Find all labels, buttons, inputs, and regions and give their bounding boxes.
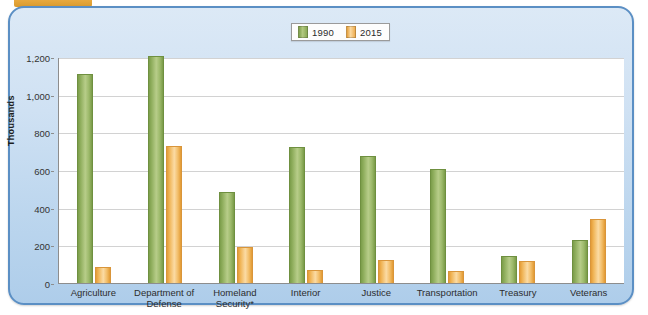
x-category-label-line: Homeland xyxy=(200,287,271,298)
legend-label-1990: 1990 xyxy=(312,27,334,38)
bar-2015[interactable] xyxy=(590,219,606,283)
bar-group xyxy=(59,58,130,283)
legend-swatch-icon-2015 xyxy=(346,26,356,38)
bar-1990[interactable] xyxy=(289,147,305,283)
legend-item-1990: 1990 xyxy=(298,26,334,38)
bar-2015[interactable] xyxy=(95,267,111,283)
y-tick-label: 800 xyxy=(10,128,50,139)
x-category-label-line: Veterans xyxy=(553,287,624,298)
bar-1990[interactable] xyxy=(219,192,235,283)
x-category-label: Interior xyxy=(270,287,341,309)
bar-group xyxy=(412,58,483,283)
y-tick-mark xyxy=(51,246,54,247)
y-tick-mark xyxy=(51,133,54,134)
x-category-label-line: Defense xyxy=(129,298,200,309)
bar-group xyxy=(483,58,554,283)
bar-1990[interactable] xyxy=(148,56,164,283)
bar-group xyxy=(342,58,413,283)
x-category-label: Justice xyxy=(341,287,412,309)
x-axis-category-labels: AgricultureDepartment ofDefenseHomelandS… xyxy=(58,287,624,309)
x-category-label-line: Security* xyxy=(200,298,271,309)
bar-2015[interactable] xyxy=(519,261,535,283)
x-category-label-line: Transportation xyxy=(412,287,483,298)
y-tick-label: 1,200 xyxy=(10,53,50,64)
bar-1990[interactable] xyxy=(360,156,376,283)
y-tick-label: 0 xyxy=(10,279,50,290)
x-category-label: Department ofDefense xyxy=(129,287,200,309)
chart-legend: 1990 2015 xyxy=(291,23,390,41)
bar-1990[interactable] xyxy=(430,169,446,283)
x-category-label-line: Treasury xyxy=(483,287,554,298)
x-category-label-line: Interior xyxy=(270,287,341,298)
legend-swatch-icon-1990 xyxy=(298,26,308,38)
bar-group xyxy=(553,58,624,283)
y-tick-mark xyxy=(51,209,54,210)
y-tick-label: 400 xyxy=(10,203,50,214)
x-category-label: Treasury xyxy=(483,287,554,309)
x-category-label-line: Agriculture xyxy=(58,287,129,298)
legend-item-2015: 2015 xyxy=(346,26,382,38)
plot-area xyxy=(58,58,624,284)
chart-panel: 1990 2015 Thousands 02004006008001,0001,… xyxy=(8,6,634,305)
bar-group xyxy=(271,58,342,283)
bar-group xyxy=(200,58,271,283)
bar-1990[interactable] xyxy=(501,256,517,283)
x-category-label: Veterans xyxy=(553,287,624,309)
y-tick-mark xyxy=(51,96,54,97)
y-axis-tick-labels: 02004006008001,0001,200 xyxy=(10,58,54,284)
bar-1990[interactable] xyxy=(572,240,588,283)
x-category-label: HomelandSecurity* xyxy=(200,287,271,309)
plot-background xyxy=(58,58,624,284)
x-category-label: Transportation xyxy=(412,287,483,309)
bar-1990[interactable] xyxy=(77,74,93,283)
bar-groups xyxy=(59,58,624,283)
bar-2015[interactable] xyxy=(307,270,323,283)
y-tick-mark xyxy=(51,58,54,59)
y-tick-mark xyxy=(51,284,54,285)
x-category-label: Agriculture xyxy=(58,287,129,309)
bar-group xyxy=(130,58,201,283)
y-tick-mark xyxy=(51,171,54,172)
y-tick-label: 200 xyxy=(10,241,50,252)
y-tick-label: 1,000 xyxy=(10,90,50,101)
bar-2015[interactable] xyxy=(166,146,182,283)
y-tick-label: 600 xyxy=(10,166,50,177)
x-category-label-line: Department of xyxy=(129,287,200,298)
bar-2015[interactable] xyxy=(378,260,394,283)
bar-2015[interactable] xyxy=(448,271,464,283)
x-category-label-line: Justice xyxy=(341,287,412,298)
bar-2015[interactable] xyxy=(237,247,253,283)
legend-label-2015: 2015 xyxy=(360,27,382,38)
